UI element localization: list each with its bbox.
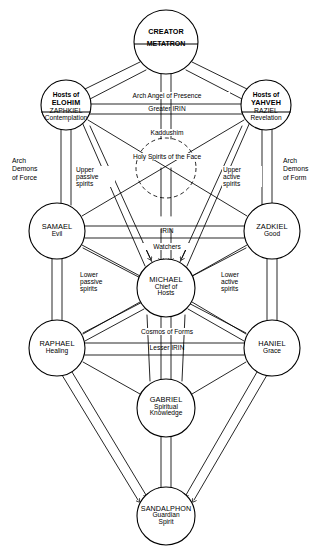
node-circle-zadkiel[interactable]: [244, 203, 300, 259]
node-circle-elohim[interactable]: [41, 80, 91, 130]
node-circle-creator[interactable]: [134, 10, 198, 74]
node-circle-haniel[interactable]: [244, 320, 300, 376]
node-circle-raphael[interactable]: [29, 320, 85, 376]
diagram-canvas: [0, 0, 329, 559]
node-circle-yahveh[interactable]: [241, 80, 291, 130]
node-circle-michael[interactable]: [137, 259, 195, 317]
node-circle-gabriel[interactable]: [137, 379, 195, 437]
kaddushim-dashed-circle: [136, 138, 196, 198]
node-circle-samael[interactable]: [29, 203, 85, 259]
tree-of-life-diagram: CREATOR METATRON Hosts of ELOHIM ZAPHKIE…: [0, 0, 329, 559]
node-circle-sandalphon[interactable]: [137, 487, 195, 545]
node-circles: [29, 10, 300, 545]
